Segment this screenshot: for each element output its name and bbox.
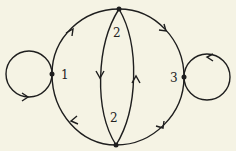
edge-3-to-2bottom [116, 77, 184, 145]
label-vertex-2-top: 2 [113, 26, 121, 40]
edge-2bottom-to-1 [52, 74, 116, 145]
label-vertex-2-bottom: 2 [110, 111, 118, 125]
arrow-icon [71, 116, 78, 124]
vertex-2-bottom [114, 143, 119, 148]
loop-1 [6, 51, 52, 97]
loop-3 [184, 54, 230, 100]
edge-2top-to-3 [119, 9, 184, 77]
arrow-icon [156, 121, 164, 128]
label-vertex-3: 3 [170, 71, 178, 85]
vertex-2-top [117, 7, 122, 12]
arrow-icon [207, 54, 213, 61]
arrow-icon [96, 71, 104, 78]
vertex-3 [182, 75, 187, 80]
vertex-1 [50, 72, 55, 77]
graph-diagram: 1 2 2 3 [0, 0, 236, 151]
label-vertex-1: 1 [61, 68, 69, 82]
edge-1-to-2top [52, 9, 119, 74]
